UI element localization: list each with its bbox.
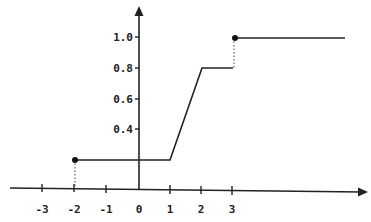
x-label: 3: [229, 203, 236, 216]
y-axis-arrow-icon: [135, 6, 144, 16]
y-tick-labels: 1.0 0.8 0.6 0.4: [113, 31, 133, 136]
y-label: 0.8: [113, 62, 133, 75]
y-label: 0.6: [113, 93, 133, 106]
x-axis-arrow-icon: [358, 188, 368, 197]
x-label: -2: [67, 203, 80, 216]
x-label: -3: [35, 203, 48, 216]
y-label: 0.4: [113, 123, 133, 136]
cdf-chart: -3 -2 -1 0 1 2 3 1.0 0.8 0.6 0.4: [0, 0, 371, 222]
cdf-line-lower: [75, 68, 233, 160]
closed-dot-left: [72, 157, 78, 163]
x-label: 2: [198, 203, 205, 216]
x-axis: [10, 188, 362, 192]
y-label: 1.0: [113, 31, 133, 44]
x-label: 1: [167, 203, 174, 216]
closed-dot-right: [232, 35, 238, 41]
x-label: -1: [99, 203, 113, 216]
x-tick-labels: -3 -2 -1 0 1 2 3: [35, 203, 235, 216]
x-label: 0: [136, 203, 143, 216]
